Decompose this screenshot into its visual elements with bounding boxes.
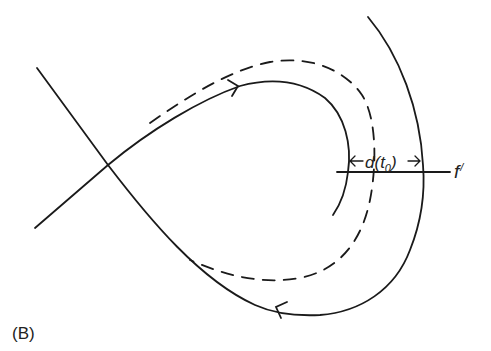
perturbed-orbit-dashed bbox=[150, 60, 374, 280]
homoclinic-loop-solid bbox=[35, 82, 349, 228]
distance-label: d(t0) bbox=[365, 153, 397, 174]
section-label-f-prime: f/ bbox=[454, 161, 464, 182]
arrow-head-bottom-icon bbox=[276, 302, 287, 318]
distance-arrow-right-icon bbox=[408, 156, 420, 166]
phase-portrait-diagram: d(t0) f/ (B) bbox=[0, 0, 491, 351]
distance-arrow-left-icon bbox=[350, 156, 363, 166]
panel-label: (B) bbox=[12, 324, 35, 343]
